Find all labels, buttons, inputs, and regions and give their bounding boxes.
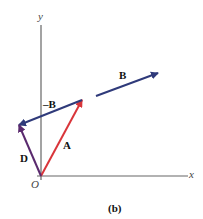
vector-b-label: B: [119, 70, 126, 81]
vector-d-label: D: [20, 153, 28, 164]
figure-caption: (b): [108, 203, 121, 214]
origin-label: O: [31, 179, 39, 190]
vector-d: [19, 125, 41, 176]
vector-neg-b-label: –B: [43, 99, 56, 110]
vector-a-label: A: [63, 140, 71, 151]
y-axis-label: y: [38, 11, 43, 22]
vector-b: [96, 73, 158, 96]
vector-a: [41, 100, 82, 176]
x-axis-label: x: [189, 169, 194, 180]
